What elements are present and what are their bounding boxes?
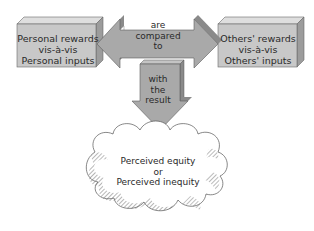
the-text: the <box>133 85 183 96</box>
with-text: with <box>133 74 183 85</box>
are-text: are <box>133 20 183 31</box>
personal-box-label: Personal rewards vis-à-vis Personal inpu… <box>12 33 104 66</box>
equity-theory-diagram: Personal rewards vis-à-vis Personal inpu… <box>0 0 314 231</box>
others-rewards-text: Others' rewards <box>212 33 304 44</box>
perceived-equity-text: Perceived equity <box>98 156 218 167</box>
or-text: or <box>98 167 218 178</box>
to-text: to <box>133 41 183 52</box>
others-box-label: Others' rewards vis-à-vis Others' inputs <box>212 33 304 66</box>
double-arrow-label: are compared to <box>133 20 183 52</box>
vis-a-vis-text: vis-à-vis <box>12 44 104 55</box>
down-arrow-label: with the result <box>133 74 183 106</box>
others-inputs-text: Others' inputs <box>212 55 304 66</box>
vis-a-vis-text: vis-à-vis <box>212 44 304 55</box>
compared-text: compared <box>133 31 183 42</box>
perceived-inequity-text: Perceived inequity <box>98 177 218 188</box>
personal-rewards-text: Personal rewards <box>12 33 104 44</box>
cloud-label: Perceived equity or Perceived inequity <box>98 156 218 188</box>
personal-inputs-text: Personal inputs <box>12 55 104 66</box>
result-text: result <box>133 95 183 106</box>
